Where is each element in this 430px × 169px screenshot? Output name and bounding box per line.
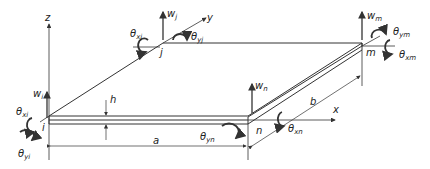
theta-yj-moment-icon bbox=[173, 34, 187, 40]
dimension-a-label: a bbox=[153, 135, 159, 146]
theta-yi-moment-icon bbox=[20, 130, 34, 140]
node-j: wj θxj θyj j bbox=[130, 8, 203, 58]
x-axis-label: x bbox=[332, 104, 339, 115]
theta-yn-label: θyn bbox=[200, 131, 215, 144]
theta-ym-label: θym bbox=[393, 26, 410, 39]
node-j-label: j bbox=[158, 47, 163, 58]
w-n-label: wn bbox=[255, 80, 268, 93]
theta-xn-moment-icon bbox=[278, 112, 284, 126]
theta-yi-label: θyi bbox=[18, 148, 30, 161]
w-m-label: wm bbox=[367, 10, 382, 23]
node-m: wm θym θxm m bbox=[362, 10, 416, 62]
plate-outline bbox=[49, 43, 362, 124]
node-i: wi θxi θyi i bbox=[16, 88, 47, 161]
plate-side-top-edge bbox=[248, 43, 362, 116]
dimension-b-label: b bbox=[310, 96, 316, 107]
w-i-label: wi bbox=[33, 88, 43, 101]
theta-xn-label: θxn bbox=[288, 123, 303, 136]
theta-yj-label: θyj bbox=[191, 31, 203, 44]
theta-xm-label: θxm bbox=[399, 49, 416, 62]
theta-xm-moment-icon bbox=[385, 40, 392, 54]
w-j-label: wj bbox=[167, 8, 177, 21]
plate-element-diagram: z y x a b h wi θxi θyi i wj θxj θyj j wm… bbox=[0, 0, 430, 169]
dimension-h-label: h bbox=[110, 94, 116, 105]
plate bbox=[49, 43, 362, 124]
theta-xi-label: θxi bbox=[16, 106, 28, 119]
node-m-label: m bbox=[366, 47, 376, 58]
theta-xj-label: θxj bbox=[130, 28, 142, 41]
theta-yn-moment-icon bbox=[222, 124, 239, 138]
z-axis-label: z bbox=[44, 12, 51, 23]
node-i-label: i bbox=[42, 122, 45, 133]
node-n-label: n bbox=[256, 125, 262, 136]
axes bbox=[40, 18, 395, 160]
node-n: wn θyn θxn n bbox=[200, 80, 303, 144]
y-axis-label: y bbox=[206, 12, 214, 23]
